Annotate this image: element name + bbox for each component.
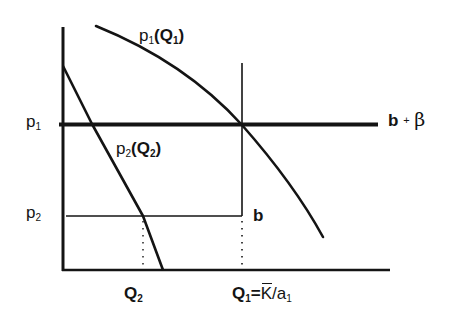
d1-close: ) [179,26,185,45]
upper-beta: β [414,108,425,130]
d2-close: ) [156,139,162,158]
p1-sub: 1 [35,121,41,132]
d1-arg: Q [160,26,173,45]
q2-sub: 2 [137,293,143,304]
q1-axis-label: Q1=K/a1 [232,285,292,304]
demand-curve-2 [63,66,163,270]
q2-axis-label: Q2 [124,285,143,304]
q1-equals: = [251,284,261,303]
q2-base: Q [124,284,137,303]
d2-arg: Q [137,139,150,158]
lower-b: b [253,206,263,225]
q1-base: Q [232,284,245,303]
p2-axis-label: p2 [26,204,41,223]
demand-curve-2-label: p2(Q2) [116,140,161,159]
k-letter: K [261,284,272,303]
k-bar: K [261,285,272,302]
upper-plus: + [403,114,409,126]
upper-b: b [388,111,398,130]
a-letter: a [277,284,286,303]
p1-axis-label: p1 [26,113,41,132]
price-quantity-diagram: p1 p2 Q2 Q1=K/a1 p1(Q1) p2(Q2) b + β b [0,0,453,319]
a-sub: 1 [286,293,292,304]
k-bar-overline [262,283,272,284]
lower-line-label: b [253,207,263,224]
demand-curve-1-label: p1(Q1) [139,27,184,46]
upper-line-label: b + β [388,110,425,129]
p2-sub: 2 [35,212,41,223]
demand-curve-1 [96,26,323,237]
